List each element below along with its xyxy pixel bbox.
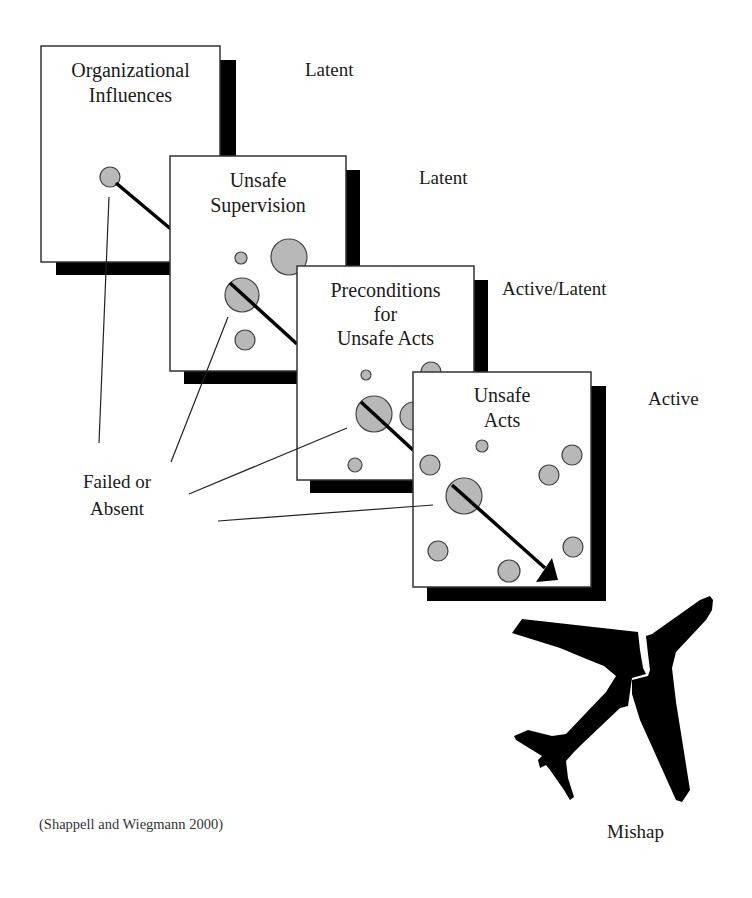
hole-icon (539, 465, 559, 485)
hole-icon (498, 560, 520, 582)
broken-airplane-icon (512, 596, 713, 802)
layer-4-status: Active (648, 387, 699, 410)
title-line: Organizational (41, 58, 220, 83)
failed-or-absent-label: Failed or Absent (67, 468, 167, 522)
hfacs-diagram (0, 0, 752, 898)
title-line: for (297, 302, 474, 326)
hole-icon (476, 440, 488, 452)
fuselage-front-piece (632, 596, 713, 802)
mishap-label: Mishap (607, 820, 664, 843)
hole-icon (562, 445, 582, 465)
hole-icon (348, 458, 362, 472)
layer-2-status: Latent (419, 166, 468, 189)
hole-icon (361, 370, 371, 380)
hole-icon (428, 541, 448, 561)
fuselage-rear-piece (512, 619, 646, 800)
layer-1-status: Latent (305, 58, 354, 81)
title-line: Unsafe (170, 168, 346, 193)
title-line: Unsafe (413, 383, 591, 408)
title-line: Influences (41, 83, 220, 108)
hole-icon (563, 537, 583, 557)
layer-3-title: Preconditions for Unsafe Acts (297, 278, 474, 350)
layer-1-title: Organizational Influences (41, 58, 220, 108)
citation: (Shappell and Wiegmann 2000) (39, 816, 223, 833)
hole-icon (420, 455, 440, 475)
title-line: Preconditions (297, 278, 474, 302)
layer-4-title: Unsafe Acts (413, 383, 591, 433)
title-line: Acts (413, 408, 591, 433)
title-line: Unsafe Acts (297, 326, 474, 350)
annotation-line: Absent (67, 495, 167, 522)
title-line: Supervision (170, 193, 346, 218)
annotation-line: Failed or (67, 468, 167, 495)
layer-2-title: Unsafe Supervision (170, 168, 346, 218)
layer-3-status: Active/Latent (502, 277, 606, 300)
hole-icon (235, 252, 247, 264)
hole-icon (235, 330, 255, 350)
